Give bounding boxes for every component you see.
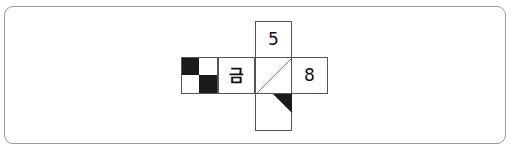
- face-top: 5: [255, 21, 292, 58]
- black-triangle: [256, 94, 293, 132]
- checker-square-top-left: [182, 58, 199, 75]
- diagonal-line: [256, 58, 293, 95]
- face-left-label: 금: [229, 68, 244, 84]
- checker-square-bottom-right: [199, 75, 217, 93]
- face-left-outer-checkerboard: [181, 57, 218, 94]
- face-center-diagonal: [255, 57, 292, 94]
- face-right-label: 8: [304, 67, 315, 84]
- face-top-label: 5: [268, 31, 279, 48]
- face-bottom-triangle: [255, 93, 292, 131]
- face-left: 금: [218, 57, 255, 94]
- face-right: 8: [291, 57, 328, 94]
